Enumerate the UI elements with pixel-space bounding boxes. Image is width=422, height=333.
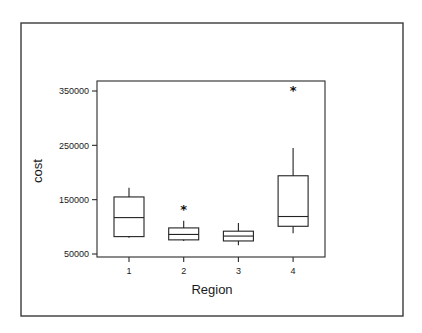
y-axis-label: cost xyxy=(30,159,45,183)
iqr-box xyxy=(114,197,144,237)
x-tick-label: 3 xyxy=(236,266,241,276)
x-tick-label: 4 xyxy=(291,266,296,276)
iqr-box xyxy=(278,176,308,227)
box-region-3 xyxy=(223,223,253,245)
plot-area xyxy=(97,81,325,257)
y-tick-label: 350000 xyxy=(59,86,89,96)
outlier-marker: * xyxy=(180,202,187,217)
outer-frame xyxy=(21,23,403,316)
boxes-group: ** xyxy=(114,83,308,245)
box-plot-chart: 50000150000250000350000 1234 ** Region c… xyxy=(0,0,422,333)
y-tick-label: 50000 xyxy=(64,249,89,259)
y-tick-label: 150000 xyxy=(59,195,89,205)
outlier-marker: * xyxy=(290,83,297,98)
box-region-2: * xyxy=(169,202,199,241)
y-axis: 50000150000250000350000 xyxy=(59,86,97,259)
x-tick-label: 1 xyxy=(126,266,131,276)
x-axis-label: Region xyxy=(191,282,232,297)
box-region-4: * xyxy=(278,83,308,234)
box-region-1 xyxy=(114,188,144,238)
x-axis: 1234 xyxy=(126,257,295,276)
y-tick-label: 250000 xyxy=(59,141,89,151)
x-tick-label: 2 xyxy=(181,266,186,276)
